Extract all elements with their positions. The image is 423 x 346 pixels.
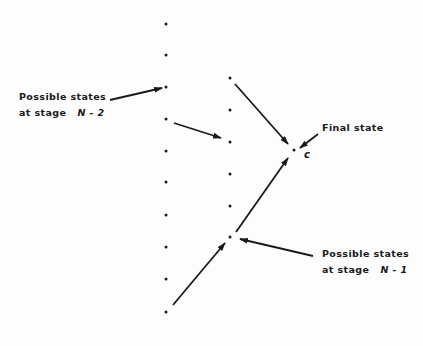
arrow-icon [110, 88, 162, 100]
label-stage-n2-line1: Possible states [19, 89, 106, 105]
label-stage-n1-var: N - 1 [380, 264, 407, 275]
final-dot [293, 149, 296, 152]
label-stage-n1-prefix: at stage [322, 264, 369, 275]
state-dot [229, 141, 232, 144]
label-stage-n1: Possible states at stage N - 1 [322, 246, 409, 278]
state-dot [165, 118, 168, 121]
arrow-icon [235, 84, 288, 144]
diagram-canvas [0, 0, 423, 346]
label-stage-n1-line2: at stage N - 1 [322, 262, 409, 278]
state-dot [165, 278, 168, 281]
state-dot [165, 181, 168, 184]
arrow-icon [240, 239, 313, 256]
state-dot [229, 109, 232, 112]
state-dot [229, 173, 232, 176]
label-stage-n2: Possible states at stage N - 2 [19, 89, 106, 121]
state-dot [229, 205, 232, 208]
label-stage-n2-line2: at stage N - 2 [19, 105, 106, 121]
arrows [110, 84, 318, 305]
final-state-dot [293, 149, 296, 152]
arrow-icon [300, 134, 318, 148]
arrow-icon [174, 123, 221, 138]
state-dot [165, 23, 168, 26]
label-stage-n2-var: N - 2 [77, 107, 104, 118]
state-dot [165, 311, 168, 314]
stage-n1-states [229, 77, 232, 239]
label-stage-n1-line1: Possible states [322, 246, 409, 262]
state-dot [165, 214, 168, 217]
state-dot [165, 246, 168, 249]
state-dot [229, 77, 232, 80]
state-dot [165, 86, 168, 89]
arrow-icon [173, 243, 225, 305]
stage-n2-states [165, 23, 168, 314]
label-final-state: Final state [322, 120, 383, 136]
state-dot [165, 54, 168, 57]
state-dot [165, 150, 168, 153]
label-stage-n2-prefix: at stage [19, 107, 66, 118]
final-state-var: c [304, 149, 310, 160]
arrow-icon [236, 158, 288, 232]
state-dot [229, 236, 232, 239]
